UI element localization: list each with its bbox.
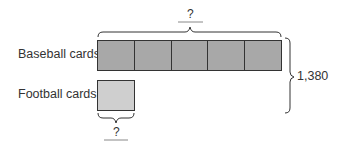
braces-overlay xyxy=(0,0,341,147)
bottom-question-mark: ? xyxy=(113,125,120,139)
bottom-brace-icon xyxy=(98,113,134,123)
total-label: 1,380 xyxy=(297,69,328,83)
right-brace-icon xyxy=(285,38,294,113)
top-question-mark: ? xyxy=(187,7,194,21)
top-brace-icon xyxy=(98,27,281,37)
